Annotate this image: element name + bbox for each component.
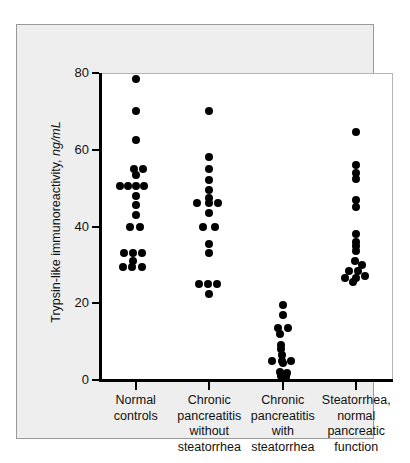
y-axis-tick-label-text: 40: [49, 220, 89, 233]
scatter-point: [126, 223, 134, 231]
x-axis-category-label-line: with: [243, 424, 323, 440]
x-axis-category-label: Steatorrhea,normalpancreaticfunction: [317, 393, 397, 455]
scatter-point: [139, 165, 147, 173]
scatter-point: [287, 357, 295, 365]
y-axis-tick: [92, 149, 99, 151]
scatter-point: [211, 223, 219, 231]
y-axis-line: [99, 73, 102, 382]
x-axis-category-label-line: Normal: [96, 393, 176, 409]
scatter-point: [132, 192, 140, 200]
y-axis-tick-label: 80: [45, 66, 89, 79]
scatter-point: [276, 330, 284, 338]
x-axis-line: [99, 379, 393, 382]
y-axis-tick-label-text: 80: [49, 66, 89, 79]
x-axis-category-label: Normalcontrols: [96, 393, 176, 424]
y-axis-tick-label: 40: [45, 220, 89, 233]
y-axis-tick-label: 0: [45, 373, 89, 386]
scatter-point: [132, 75, 140, 83]
x-axis-category-label-line: normal: [317, 409, 397, 425]
scatter-point: [132, 211, 140, 219]
scatter-point: [279, 301, 287, 309]
scatter-point: [279, 359, 287, 367]
y-axis-tick: [92, 226, 99, 228]
x-axis-tick: [282, 382, 284, 390]
scatter-point: [284, 324, 292, 332]
scatter-point: [279, 374, 287, 382]
y-axis-tick-label-text: 20: [49, 296, 89, 309]
scatter-point: [205, 240, 213, 248]
y-axis-tick: [92, 302, 99, 304]
x-axis-category-label-line: Chronic: [170, 393, 250, 409]
y-axis-tick: [92, 379, 99, 381]
scatter-point: [199, 223, 207, 231]
plot-right-edge: [392, 73, 393, 380]
scatter-point: [268, 357, 276, 365]
x-axis-category-label-line: function: [317, 440, 397, 456]
y-axis-tick: [92, 72, 99, 74]
scatter-point: [140, 182, 148, 190]
scatter-point: [132, 171, 140, 179]
y-axis-tick-label-text: 0: [49, 373, 89, 386]
x-axis-category-label-line: steatorrhea: [170, 440, 250, 456]
x-axis-tick: [208, 382, 210, 390]
plot-top-edge: [99, 73, 393, 74]
figure-root: Trypsin-like immunoreactivity, ng/mL 020…: [0, 0, 410, 463]
scatter-point: [136, 223, 144, 231]
x-axis-category-label-line: Chronic: [243, 393, 323, 409]
scatter-point: [116, 182, 124, 190]
scatter-point: [132, 182, 140, 190]
x-axis-category-label: Chronicpancreatitiswithoutsteatorrhea: [170, 393, 250, 455]
x-axis-category-label-line: without: [170, 424, 250, 440]
x-axis-category-label-line: pancreatitis: [243, 409, 323, 425]
scatter-point: [128, 263, 136, 271]
scatter-point: [205, 290, 213, 298]
x-axis-tick: [355, 382, 357, 390]
x-axis-category-label: Chronicpancreatitiswithsteatorrhea: [243, 393, 323, 455]
x-axis-tick: [135, 382, 137, 390]
scatter-point: [352, 175, 360, 183]
x-axis-category-label-line: steatorrhea: [243, 440, 323, 456]
scatter-point: [119, 263, 127, 271]
y-axis-tick-label-text: 60: [49, 143, 89, 156]
scatter-point: [124, 182, 132, 190]
scatter-point: [138, 263, 146, 271]
x-axis-category-label-line: Steatorrhea,: [317, 393, 397, 409]
figure-panel: Trypsin-like immunoreactivity, ng/mL 020…: [16, 24, 374, 439]
x-axis-category-label-line: controls: [96, 409, 176, 425]
y-axis-tick-label: 60: [45, 143, 89, 156]
x-axis-category-label-line: pancreatitis: [170, 409, 250, 425]
x-axis-category-label-line: pancreatic: [317, 424, 397, 440]
scatter-point: [132, 136, 140, 144]
scatter-point: [279, 311, 287, 319]
y-axis-tick-label: 20: [45, 296, 89, 309]
